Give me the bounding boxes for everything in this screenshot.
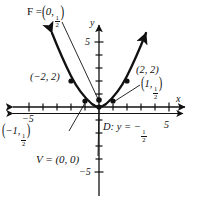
focus-label-open-paren: ( <box>42 3 46 20</box>
point-vertex <box>96 104 101 109</box>
directrix-label-fraction: 12 <box>141 129 146 143</box>
point-label-neg1-half: (−1,12) <box>2 126 30 147</box>
directrix-label: D: y = −12 <box>103 122 147 143</box>
parabola-figure: F =(0,12) y 5 −5 x −5 5 (−2, 2) (2, 2) (… <box>0 0 198 200</box>
y-axis-label: y <box>90 17 94 28</box>
directrix-label-prefix: D: <box>103 121 114 132</box>
point-1-half-fraction: 12 <box>153 86 158 100</box>
point-label-1-half: (1,12) <box>141 79 162 100</box>
directrix-label-equation: y = − <box>117 121 141 132</box>
focus-label-prefix: F = <box>27 5 42 17</box>
focus-label-x: 0, <box>46 5 54 17</box>
point-1-half <box>110 98 115 103</box>
vertex-label: V = (0, 0) <box>36 154 79 165</box>
point-label-2-2: (2, 2) <box>136 65 159 76</box>
leader-focus <box>62 22 98 99</box>
point-focus <box>96 97 102 103</box>
point-neg2-2 <box>68 78 73 83</box>
focus-label: F =(0,12) <box>27 6 64 29</box>
point-neg1-half-open-paren: ( <box>2 123 6 139</box>
y-tick-label-5: 5 <box>85 36 90 47</box>
x-tick-label-5: 5 <box>164 119 169 130</box>
point-neg1-half-fraction: 12 <box>21 133 26 147</box>
leader-1-half <box>115 85 140 101</box>
x-axis-label: x <box>176 93 180 104</box>
y-tick-label-neg5: −5 <box>79 166 91 177</box>
point-label-neg2-2: (−2, 2) <box>30 72 60 83</box>
figure-canvas <box>0 0 198 200</box>
point-neg1-half-close-paren: ) <box>27 123 31 139</box>
focus-label-fraction: 12 <box>55 15 60 30</box>
point-1-half-open-paren: ( <box>141 76 145 92</box>
point-2-2 <box>124 78 129 83</box>
point-1-half-close-paren: ) <box>159 76 163 92</box>
point-1-half-x: 1, <box>145 78 153 89</box>
point-neg1-half <box>82 98 87 103</box>
point-neg1-half-x: −1, <box>6 125 21 136</box>
focus-label-close-paren: ) <box>60 3 64 20</box>
